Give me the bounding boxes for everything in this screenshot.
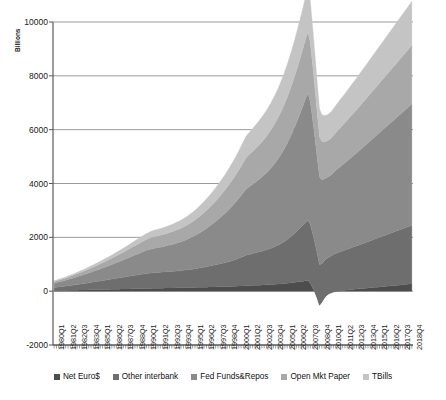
legend-swatch-icon bbox=[113, 374, 119, 380]
x-tick-label: 2001Q2 bbox=[253, 324, 262, 350]
x-tick-label: 2017Q3 bbox=[403, 324, 412, 350]
x-tick-label: 1998Q4 bbox=[230, 324, 239, 350]
legend-swatch-icon bbox=[191, 374, 197, 380]
y-tick-label: 10000 bbox=[8, 17, 48, 27]
y-tick-label: 6000 bbox=[8, 125, 48, 135]
x-tick-label: 2012Q3 bbox=[357, 324, 366, 350]
x-tick-label: 2000Q1 bbox=[242, 324, 251, 350]
x-tick-label: 2010Q1 bbox=[334, 324, 343, 350]
y-tick-label: 0 bbox=[8, 286, 48, 296]
legend-label: Fed Funds&Repos bbox=[200, 372, 268, 381]
y-tick-label: 8000 bbox=[8, 71, 48, 81]
x-tick-label: 1993Q4 bbox=[184, 324, 193, 350]
legend-item[interactable]: TBills bbox=[363, 372, 392, 381]
y-tick-label: -2000 bbox=[8, 340, 48, 350]
x-tick-label: 2003Q4 bbox=[276, 324, 285, 350]
x-tick-label: 2013Q4 bbox=[369, 324, 378, 350]
x-tick-label: 1985Q1 bbox=[103, 324, 112, 350]
legend-label: Other interbank bbox=[122, 372, 178, 381]
x-tick-label: 2011Q2 bbox=[346, 325, 355, 350]
legend-item[interactable]: Fed Funds&Repos bbox=[191, 372, 268, 381]
y-axis-title: Billions bbox=[14, 29, 21, 52]
y-tick-label: 4000 bbox=[8, 179, 48, 189]
x-tick-label: 1983Q4 bbox=[92, 324, 101, 350]
x-tick-label: 2006Q2 bbox=[299, 324, 308, 350]
x-tick-label: 2007Q3 bbox=[311, 324, 320, 350]
x-tick-label: 1980Q1 bbox=[57, 324, 66, 350]
x-tick-label: 1997Q3 bbox=[219, 324, 228, 350]
legend-label: TBills bbox=[372, 372, 392, 381]
legend-swatch-icon bbox=[281, 374, 287, 380]
x-tick-label: 1988Q4 bbox=[138, 324, 147, 350]
legend-item[interactable]: Net Euro$ bbox=[54, 372, 100, 381]
x-tick-label: 2016Q2 bbox=[392, 324, 401, 350]
stacked-area-chart: Billions -20000200040006000800010000 198… bbox=[0, 0, 446, 400]
chart-legend: Net Euro$Other interbankFed Funds&ReposO… bbox=[0, 372, 446, 381]
legend-label: Net Euro$ bbox=[63, 372, 100, 381]
x-tick-label: 1987Q3 bbox=[126, 324, 135, 350]
x-tick-label: 1986Q2 bbox=[115, 324, 124, 350]
x-tick-label: 2008Q4 bbox=[323, 324, 332, 350]
x-tick-label: 2002Q3 bbox=[265, 324, 274, 350]
legend-swatch-icon bbox=[54, 374, 60, 380]
x-tick-label: 1982Q3 bbox=[80, 324, 89, 350]
x-tick-label: 1981Q2 bbox=[69, 324, 78, 350]
legend-swatch-icon bbox=[363, 374, 369, 380]
legend-label: Open Mkt Paper bbox=[290, 372, 350, 381]
x-tick-label: 1990Q1 bbox=[149, 324, 158, 350]
y-tick-label: 2000 bbox=[8, 232, 48, 242]
legend-item[interactable]: Open Mkt Paper bbox=[281, 372, 350, 381]
x-tick-label: 1995Q1 bbox=[196, 324, 205, 350]
x-tick-label: 2018Q4 bbox=[415, 324, 424, 350]
x-tick-label: 2015Q1 bbox=[380, 324, 389, 350]
x-tick-label: 1991Q2 bbox=[161, 324, 170, 350]
x-tick-label: 1992Q3 bbox=[173, 324, 182, 350]
x-tick-label: 2005Q1 bbox=[288, 324, 297, 350]
x-tick-label: 1996Q2 bbox=[207, 324, 216, 350]
legend-item[interactable]: Other interbank bbox=[113, 372, 178, 381]
